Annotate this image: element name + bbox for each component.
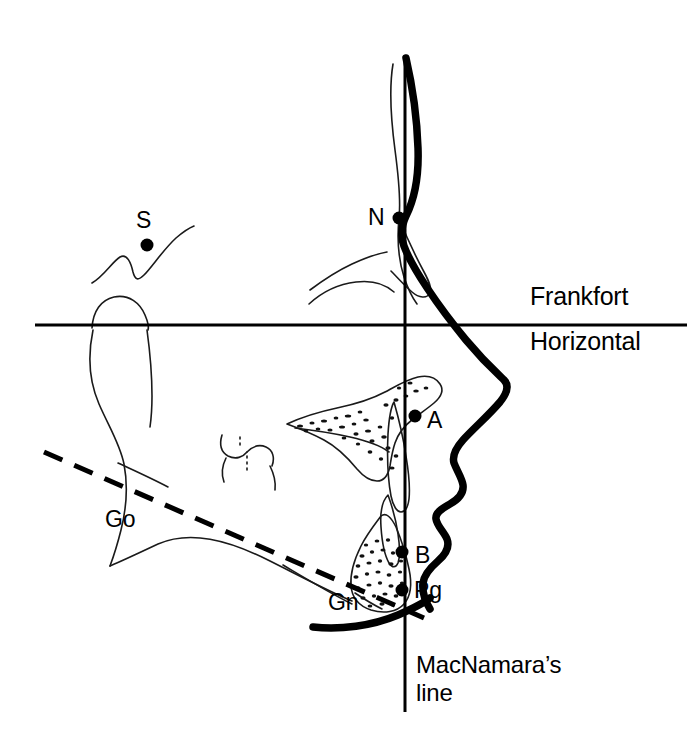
posterior-teeth-outline	[221, 435, 247, 458]
cephalometric-figure: S N A B Pg Go Gn Frankfort Horizontal Ma…	[0, 0, 687, 740]
soft-tissue-profile-line	[402, 58, 508, 609]
cranial-base-outline	[310, 252, 387, 290]
mcnamara-label-line2: line	[416, 680, 453, 707]
posterior-teeth-outline-4	[270, 466, 275, 490]
maxilla-stipple	[297, 382, 428, 470]
landmark-dot-pogonion	[396, 584, 409, 597]
landmark-label-pg: Pg	[414, 578, 442, 604]
mandibular-lower-border	[110, 537, 352, 601]
landmark-dot-sella	[141, 239, 154, 252]
lower-incisor-outline	[381, 495, 400, 567]
mcnamara-label-line1: MacNamara’s	[416, 652, 561, 679]
landmark-dot-group	[141, 212, 422, 597]
hard-tissue-outline-group	[90, 64, 442, 612]
condylar-neck-line	[147, 330, 152, 427]
landmark-dot-b-point	[396, 546, 409, 559]
maxilla-outline	[287, 376, 442, 481]
landmark-label-gn: Gn	[328, 590, 358, 616]
palate-line	[295, 428, 389, 452]
landmark-dot-a-point	[409, 410, 422, 423]
sella-turcica-outline	[92, 226, 194, 283]
landmark-label-b: B	[415, 543, 430, 569]
posterior-teeth-outline-2	[247, 446, 273, 466]
landmark-dot-nasion	[393, 212, 406, 225]
soft-tissue-profile-group	[313, 58, 507, 628]
landmark-label-s: S	[136, 208, 151, 234]
cephalometric-tracing-canvas	[0, 0, 687, 740]
orbit-outline	[309, 281, 394, 304]
frankfort-label-line1: Frankfort	[530, 282, 628, 310]
frankfort-label-line2: Horizontal	[530, 327, 641, 355]
landmark-label-a: A	[427, 408, 442, 434]
posterior-teeth-outline-3	[222, 458, 226, 482]
landmark-label-n: N	[368, 205, 384, 231]
landmark-label-go: Go	[105, 507, 135, 533]
